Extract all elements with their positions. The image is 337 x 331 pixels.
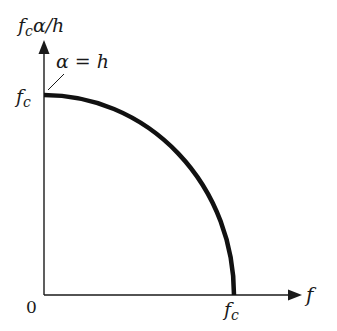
annotation-alpha-equals-h: α = h (56, 50, 109, 72)
origin-label: 0 (26, 297, 37, 317)
capacity-curve (44, 95, 234, 295)
y-axis-label: fcα/h (16, 14, 64, 39)
y-axis-arrow-icon (39, 40, 50, 54)
x-axis-arrow-icon (288, 290, 302, 301)
annotation-leader-line (48, 74, 64, 90)
x-tick-label-fc: fc (222, 298, 239, 323)
y-tick-label-fc: fc (14, 85, 31, 110)
diagram: fcα/h α = h fc 0 fc f (0, 0, 337, 331)
x-axis-label: f (304, 283, 317, 307)
